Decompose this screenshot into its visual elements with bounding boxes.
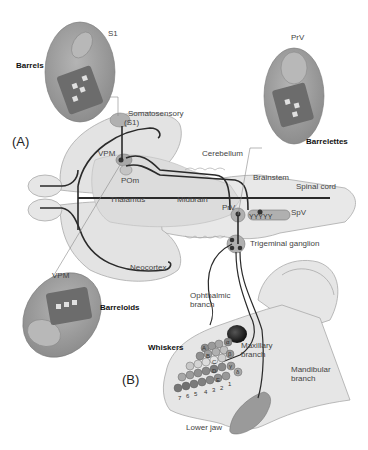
whisker-pathway-diagram: YYYYY [0,0,368,450]
spinal-cord-label: Spinal cord [296,182,336,191]
barrels-label: Barrels [16,61,44,70]
mandibular-branch-label-2: branch [291,374,315,383]
s1-inset-label: S1 [108,29,118,38]
pom-label: POm [121,176,140,185]
inset-prv-barrelettes [264,48,324,144]
s1-label: (S1) [124,118,139,127]
spv-label: SpV [291,208,307,217]
ophthalmic-branch-label-1: Ophthalmic [190,291,230,300]
lower-jaw-label: Lower jaw [186,423,222,432]
midbrain-label: Midbrain [177,195,208,204]
cerebellum-label: Cerebellum [202,149,243,158]
neocortex-label: Neocortex [130,263,166,272]
whiskers-label: Whiskers [148,343,184,352]
vpm-label: VPM [98,149,116,158]
prv-label: PrV [222,203,236,212]
svg-text:D: D [212,368,217,374]
panel-b-label: (B) [122,372,139,387]
svg-text:YYYYY: YYYYY [249,213,273,220]
ophthalmic-branch-label-2: branch [190,300,214,309]
svg-text:E: E [216,377,220,383]
brainstem-label: Brainstem [253,173,289,182]
somatosensory-label: Somatosensory [128,109,184,118]
svg-text:β: β [228,351,232,357]
vpm-inset-label: VPM [52,271,70,280]
panel-a-label: (A) [12,134,29,149]
barrelettes-label: Barrelettes [306,137,348,146]
mandibular-branch-label-1: Mandibular [291,365,331,374]
vpm-nucleus [116,154,132,166]
prv-inset-label: PrV [291,33,305,42]
trigeminal-ganglion [227,235,245,253]
barreloids-label: Barreloids [100,303,140,312]
trigeminal-ganglion-label: Trigeminal ganglion [250,239,320,248]
svg-text:B: B [206,353,210,359]
svg-text:A: A [202,345,206,351]
svg-text:α: α [226,339,230,345]
maxillary-branch-label-1: Maxillary [241,341,273,350]
inset-s1-barrels [45,22,115,122]
svg-text:γ: γ [229,363,232,369]
olfactory-bulb-bottom [28,199,62,221]
pom-nucleus [120,165,132,175]
thalamus-label: Thalamus [110,195,145,204]
maxillary-branch-label-2: branch [241,350,265,359]
svg-text:C: C [212,359,217,365]
